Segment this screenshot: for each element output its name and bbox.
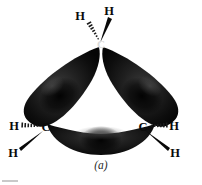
- page-edge-artifact: [2, 180, 18, 182]
- bond-c-left-to-h-lower: [19, 131, 43, 151]
- atom-label-hydrogen-top-left: H: [75, 10, 85, 23]
- atom-label-hydrogen-left-side: H: [9, 120, 19, 133]
- atom-label-carbon-left: C: [41, 121, 50, 134]
- figure-container: C C C H H H H H H (a): [0, 0, 202, 185]
- atom-label-hydrogen-right-lower: H: [170, 147, 180, 160]
- atom-label-hydrogen-left-lower: H: [8, 147, 18, 160]
- atom-label-carbon-right: C: [138, 121, 147, 134]
- figure-caption: (a): [0, 159, 202, 171]
- atom-label-hydrogen-right-side: H: [169, 120, 179, 133]
- bent-bond-lobe-upper-left: [24, 47, 100, 127]
- atom-label-carbon-top: C: [97, 39, 105, 50]
- bent-bond-lobe-upper-right: [102, 47, 178, 127]
- atom-label-hydrogen-top-right: H: [104, 5, 114, 18]
- bond-c-right-to-h-lower: [146, 131, 170, 151]
